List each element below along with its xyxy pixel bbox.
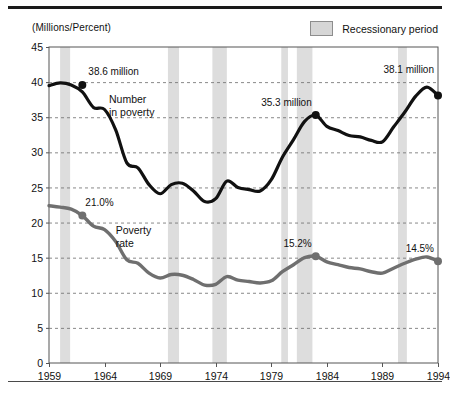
y-tick-label: 35: [31, 111, 43, 123]
top-divider-rule: [8, 6, 442, 9]
recession-band: [281, 47, 288, 363]
data-point-marker: [78, 81, 86, 89]
chart-plot-area: 0510152025303540451959196419691974197919…: [0, 0, 450, 394]
recession-band: [398, 47, 407, 363]
series-label: Povertyrate: [116, 224, 152, 249]
data-point-marker: [434, 257, 442, 265]
y-tick-label: 45: [31, 41, 43, 53]
y-tick-label: 40: [31, 76, 43, 88]
number-1994-label: 38.1 million: [383, 64, 434, 75]
series-line: [49, 83, 438, 202]
bottom-divider-rule: [8, 381, 442, 382]
data-point-marker: [78, 212, 86, 220]
recession-band: [212, 47, 226, 363]
poverty-chart-figure: (Millions/Percent) Recessionary period 0…: [0, 0, 450, 394]
data-point-marker: [312, 111, 320, 119]
y-tick-label: 20: [31, 217, 43, 229]
rate-1994-label: 14.5%: [406, 243, 434, 254]
axis-unit-label: (Millions/Percent): [32, 22, 111, 33]
series-line: [49, 206, 438, 286]
recession-band: [60, 47, 70, 363]
series-labels: Numberin povertyPovertyrate: [109, 93, 155, 249]
y-tick-label: 0: [37, 357, 43, 369]
recession-band: [168, 47, 179, 363]
chart-legend: Recessionary period: [310, 21, 438, 36]
recession-band: [297, 47, 313, 363]
y-tick-label: 10: [31, 287, 43, 299]
data-point-marker: [434, 91, 442, 99]
y-tick-label: 30: [31, 146, 43, 158]
rate-1983-label: 15.2%: [283, 238, 311, 249]
recession-swatch-icon: [310, 21, 333, 36]
series-label: Numberin poverty: [109, 93, 155, 118]
number-1983-label: 35.3 million: [261, 97, 312, 108]
x-axis: 19591964196919741979198419891994: [38, 363, 450, 382]
number-1962-label: 38.6 million: [88, 66, 139, 77]
legend-label-recession: Recessionary period: [342, 23, 438, 35]
y-tick-label: 25: [31, 182, 43, 194]
y-tick-label: 5: [37, 322, 43, 334]
rate-1962-label: 21.0%: [85, 197, 113, 208]
data-point-marker: [312, 252, 320, 260]
y-tick-label: 15: [31, 252, 43, 264]
